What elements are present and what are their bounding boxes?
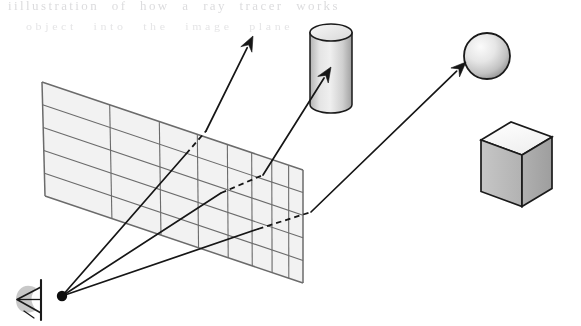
cylinder-body [310, 33, 352, 114]
viewpoint-dot [57, 291, 67, 301]
ray-segment-after-plane [206, 48, 247, 131]
sphere-body [464, 33, 510, 79]
plane-fill [42, 82, 303, 283]
scene-objects [310, 24, 552, 207]
grid-line-vertical [252, 153, 253, 266]
ray-tracing-diagram [0, 0, 581, 326]
ray-segment-after-plane [263, 78, 324, 175]
image-plane-grid [42, 82, 303, 283]
eye-icon [16, 280, 67, 320]
figure-root: iillustration of how a ray tracer works … [0, 0, 581, 326]
cylinder-top [310, 24, 352, 41]
